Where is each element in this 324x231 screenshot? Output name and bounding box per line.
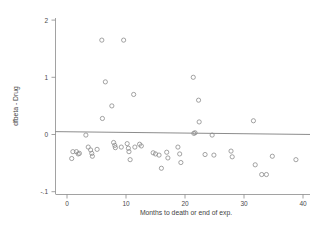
data-point [260,172,264,176]
data-point [100,38,104,42]
data-point-group [70,38,298,177]
y-tick-label: 1 [44,74,48,81]
data-point [253,163,257,167]
data-point [132,92,136,96]
x-tick-group: 010203040 [65,195,307,208]
data-point [203,152,207,156]
x-tick-label: 0 [65,200,69,207]
data-point [122,38,126,42]
data-point [191,75,195,79]
data-point [212,153,216,157]
data-point [264,172,268,176]
data-point [294,158,298,162]
chart-canvas: 210-.1 010203040 Months to death or end … [0,0,324,231]
data-point [196,98,200,102]
y-tick-label: 0 [44,131,48,138]
x-tick-label: 40 [299,200,307,207]
data-point [251,119,255,123]
data-point [100,116,104,120]
data-point [229,149,233,153]
data-point [165,150,169,154]
x-tick-label: 30 [240,200,248,207]
zero-reference-line [56,132,311,135]
data-point [95,147,99,151]
data-point [178,152,182,156]
data-point [197,120,201,124]
scatter-plot-figure: 210-.1 010203040 Months to death or end … [0,0,324,231]
data-point [86,145,90,149]
data-point [133,145,137,149]
data-point [176,145,180,149]
data-point [84,133,88,137]
data-point [230,155,234,159]
y-tick-label: 2 [44,17,48,24]
x-tick-label: 10 [122,200,130,207]
data-point [159,166,163,170]
data-point [179,160,183,164]
y-tick-group: 210-.1 [40,17,55,196]
data-point [103,80,107,84]
y-axis-title: dfbeta - Drug [12,86,20,126]
data-point [70,156,74,160]
data-point [119,145,123,149]
x-tick-label: 20 [181,200,189,207]
data-point [166,156,170,160]
y-tick-label: -.1 [40,188,48,195]
data-point [128,158,132,162]
data-point [110,104,114,108]
data-point [90,154,94,158]
x-axis-title: Months to death or end of exp. [140,209,232,217]
data-point [125,142,129,146]
data-point [270,154,274,158]
